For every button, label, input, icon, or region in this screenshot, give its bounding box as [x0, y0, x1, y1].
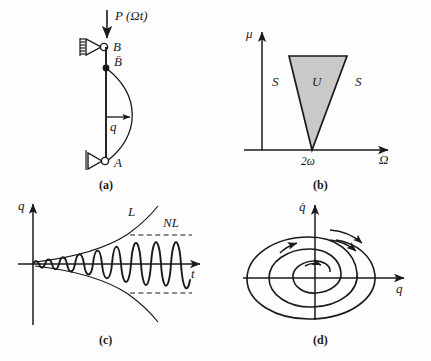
panel-a-load-label: P (Ωt)	[114, 8, 148, 23]
panel-d-xaxis-label: q	[396, 281, 403, 296]
panel-a-bottom-support-label: A	[113, 155, 122, 170]
flow-arrow-inner-center	[305, 264, 321, 266]
panel-d: q̇ q (d)	[243, 199, 404, 347]
panel-a-caption: (a)	[99, 178, 113, 192]
panel-b-stable-left-label: S	[272, 74, 279, 89]
panel-b-tick-label: 2ω	[301, 155, 315, 167]
response-oscillation-curve	[33, 242, 190, 288]
panel-a-top-support-label: B	[113, 39, 121, 54]
bottom-pin-circle	[101, 157, 108, 164]
top-wall-hatching	[80, 38, 85, 56]
panel-c-yaxis-label: q	[18, 198, 25, 213]
panel-c-nonlinear-label: NL	[162, 215, 179, 230]
column-buckled-shape	[106, 68, 132, 162]
unstable-wedge-region	[289, 56, 347, 150]
panel-a-deflection-label: q	[110, 119, 117, 134]
panel-b: μ Ω S U S 2ω (b)	[244, 26, 388, 192]
panel-b-stable-right-label: S	[355, 74, 362, 89]
panel-c: q t L NL (c)	[18, 198, 200, 347]
panel-c-xaxis-label: t	[191, 266, 195, 281]
panel-b-yaxis-label: μ	[245, 26, 253, 41]
panel-a: P (Ωt) B B̄ q A (a)	[80, 8, 148, 192]
panel-b-caption: (b)	[313, 178, 328, 192]
panel-b-unstable-label: U	[312, 74, 323, 89]
envelope-lower-linear	[35, 266, 158, 322]
top-roller-triangle	[86, 39, 101, 55]
panel-d-yaxis-label: q̇	[299, 199, 306, 214]
panel-a-node-label: B̄	[114, 54, 122, 69]
panel-b-xaxis-label: Ω	[379, 152, 388, 167]
phase-spiral-inner	[293, 261, 341, 293]
panel-d-caption: (d)	[313, 333, 328, 347]
panel-c-caption: (c)	[99, 333, 112, 347]
panel-c-linear-label: L	[127, 204, 135, 219]
figure-canvas: P (Ωt) B B̄ q A (a)	[0, 0, 431, 361]
bottom-roller-triangle	[88, 153, 102, 169]
